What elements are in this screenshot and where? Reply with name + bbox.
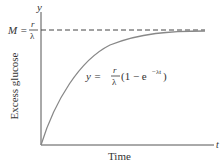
x-axis-symbol: t [216,139,219,150]
equation-y: y = [85,70,101,82]
equation-r: r [113,65,117,75]
equation-close: ) [163,70,167,83]
chart-canvas: y t M = r λ y = r λ (1 − e −λt ) [0,0,223,167]
growth-curve [41,31,205,145]
asymptote-r: r [31,19,35,29]
asymptote-label: M = [7,24,27,36]
y-axis-symbol: y [36,1,42,13]
equation-exponent: −λt [152,68,161,76]
asymptote-lambda: λ [30,31,35,41]
x-axis-label: Time [108,150,131,162]
equation-lambda: λ [112,77,117,87]
y-axis-label: Excess glucose [8,36,20,136]
equation-tail: (1 − e [121,70,147,83]
